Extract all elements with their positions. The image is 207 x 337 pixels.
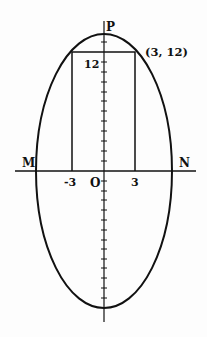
- ellipse-diagram: P (3, 12) 12 M N -3 O 3: [0, 0, 207, 337]
- label-n: N: [179, 156, 190, 170]
- label-m: M: [22, 156, 35, 170]
- label-origin: O: [90, 176, 100, 190]
- label-x-3: 3: [131, 176, 139, 189]
- diagram-canvas: P (3, 12) 12 M N -3 O 3: [0, 0, 207, 337]
- label-p: P: [106, 20, 115, 34]
- label-corner: (3, 12): [145, 45, 188, 59]
- label-x-neg3: -3: [64, 176, 76, 189]
- label-y-12: 12: [84, 58, 99, 71]
